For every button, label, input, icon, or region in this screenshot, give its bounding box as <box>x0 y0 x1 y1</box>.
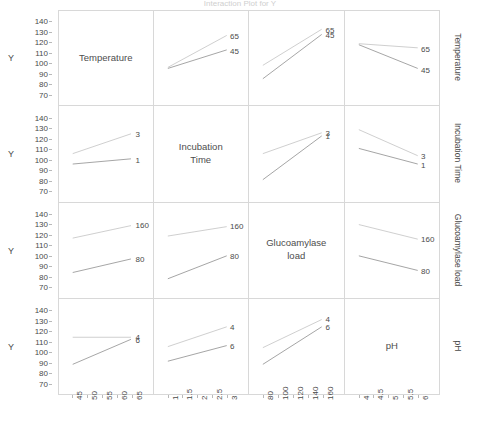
series-endpoint-label: 6 <box>326 322 330 331</box>
series-endpoint-label: 3 <box>136 130 140 139</box>
panel-lines <box>345 11 440 105</box>
y-tick-label: 100 <box>35 59 48 68</box>
x-tick-mark <box>72 395 73 398</box>
interaction-plot-matrix: Interaction Plot for Y Temperature654565… <box>0 0 480 434</box>
y-tick-label: 80 <box>39 369 48 378</box>
y-tick-label: 90 <box>39 358 48 367</box>
x-tick-mark <box>418 395 419 398</box>
panel-lines <box>249 106 344 201</box>
y-tick-label: 130 <box>35 316 48 325</box>
x-tick-label: 4.5 <box>376 389 385 400</box>
y-tick-label: 110 <box>35 145 48 154</box>
panel-diagonal-glucoamylase-load: Glucoamylaseload <box>249 203 345 299</box>
y-tick-mark <box>49 266 52 267</box>
y-tick-mark <box>49 342 52 343</box>
x-tick-label: 5.5 <box>406 389 415 400</box>
x-tick-label: 45 <box>75 391 84 400</box>
y-tick-label: 100 <box>35 251 48 260</box>
panel-diagonal-label: pH <box>345 299 440 394</box>
y-tick-mark <box>49 214 52 215</box>
y-tick-mark <box>49 235 52 236</box>
panel-r2-c1: 16080 <box>154 203 250 299</box>
series-line <box>73 159 131 164</box>
x-tick-label: 4 <box>362 396 371 400</box>
y-tick-mark <box>49 373 52 374</box>
series-endpoint-label: 45 <box>230 46 239 55</box>
y-tick-mark <box>49 139 52 140</box>
y-tick-mark <box>49 149 52 150</box>
y-tick-label: 80 <box>39 80 48 89</box>
series-endpoint-label: 45 <box>421 65 430 74</box>
panel-diagonal-label: Temperature <box>59 11 153 105</box>
y-axis-label: Y <box>8 53 14 63</box>
y-tick-mark <box>49 53 52 54</box>
series-line <box>263 133 322 154</box>
series-endpoint-label: 4 <box>230 322 234 331</box>
series-line <box>73 339 131 364</box>
series-line <box>358 45 417 69</box>
panel-lines <box>154 11 249 105</box>
y-tick-label: 140 <box>35 209 48 218</box>
x-tick-mark <box>278 395 279 398</box>
series-line <box>167 255 226 278</box>
x-tick-label: 160 <box>326 387 335 400</box>
x-tick-label: 60 <box>120 391 129 400</box>
y-tick-mark <box>49 352 52 353</box>
y-axis-row-0: 140130120110100908070Y <box>0 10 52 106</box>
x-tick-label: 6 <box>421 396 430 400</box>
panel-r1-c2: 31 <box>249 106 345 202</box>
y-tick-mark <box>49 384 52 385</box>
y-tick-label: 100 <box>35 348 48 357</box>
panel-r0-c1: 6545 <box>154 10 250 106</box>
series-endpoint-label: 1 <box>136 155 140 164</box>
y-tick-label: 110 <box>35 337 48 346</box>
x-tick-mark <box>212 395 213 398</box>
y-tick-label: 130 <box>35 124 48 133</box>
x-tick-mark <box>263 395 264 398</box>
y-tick-label: 80 <box>39 176 48 185</box>
series-line <box>263 319 322 347</box>
y-tick-label: 120 <box>35 230 48 239</box>
x-tick-label: 100 <box>281 387 290 400</box>
y-tick-label: 90 <box>39 262 48 271</box>
y-tick-label: 130 <box>35 27 48 36</box>
x-tick-mark <box>359 395 360 398</box>
series-line <box>73 258 131 272</box>
panel-r1-c3: 31 <box>345 106 441 202</box>
x-tick-mark <box>87 395 88 398</box>
x-tick-mark <box>388 395 389 398</box>
y-tick-mark <box>49 363 52 364</box>
x-tick-mark <box>293 395 294 398</box>
y-tick-label: 120 <box>35 38 48 47</box>
x-tick-label: 120 <box>296 387 305 400</box>
series-line <box>263 136 322 180</box>
y-tick-label: 70 <box>39 90 48 99</box>
series-line <box>263 29 322 65</box>
y-axis-row-2: 140130120110100908070Y <box>0 203 52 299</box>
panel-r3-c2: 46 <box>249 299 345 395</box>
y-axis-label: Y <box>8 342 14 352</box>
series-line <box>263 34 322 78</box>
x-tick-label: 50 <box>90 391 99 400</box>
y-tick-label: 140 <box>35 306 48 315</box>
x-tick-mark <box>168 395 169 398</box>
y-tick-mark <box>49 63 52 64</box>
y-tick-label: 100 <box>35 155 48 164</box>
y-axis-label: Y <box>8 149 14 159</box>
y-tick-label: 140 <box>35 17 48 26</box>
series-line <box>358 130 417 156</box>
series-line <box>73 134 131 154</box>
panel-diagonal-ph: pH <box>345 299 441 395</box>
panel-r0-c3: 6545 <box>345 10 441 106</box>
series-line <box>167 327 226 347</box>
x-tick-mark <box>308 395 309 398</box>
series-line <box>358 44 417 48</box>
y-tick-label: 80 <box>39 272 48 281</box>
y-tick-mark <box>49 181 52 182</box>
y-tick-mark <box>49 277 52 278</box>
series-line <box>167 226 226 235</box>
series-endpoint-label: 45 <box>326 30 335 39</box>
x-tick-label: 2 <box>200 396 209 400</box>
panel-diagonal-label: IncubationTime <box>154 106 249 201</box>
panel-r3-c0: 46 <box>58 299 154 395</box>
